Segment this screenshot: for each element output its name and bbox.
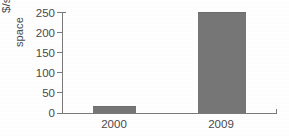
bar-2000 [93, 106, 136, 113]
y-tick-label-100: 100 [3, 68, 55, 79]
y-tick-label-200: 200 [3, 28, 55, 39]
y-tick-0 [57, 113, 62, 114]
y-tick-label-50: 50 [3, 88, 55, 99]
plot-area [62, 12, 277, 113]
y-tick-label-0: 0 [3, 108, 55, 119]
x-axis-line [62, 113, 277, 114]
y-axis-tick-labels: 250 200 150 100 50 0 [0, 0, 55, 120]
y-tick-label-150: 150 [3, 48, 55, 59]
bar-chart: $/sq meter deteriorated space 250 200 15… [0, 0, 289, 136]
x-tick-label-2000: 2000 [83, 117, 145, 131]
x-tick-label-2009: 2009 [190, 117, 252, 131]
y-tick-label-250: 250 [3, 8, 55, 19]
bar-2009 [198, 12, 246, 113]
